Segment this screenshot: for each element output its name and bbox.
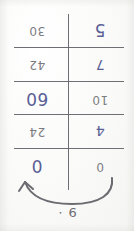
- table-cell-left-3: 60: [14, 86, 60, 112]
- table-cell-left-2: 42: [14, 53, 60, 77]
- table-row-divider-2: [14, 81, 124, 82]
- table-row-divider-4: [14, 148, 124, 149]
- table-cell-left-4: 24: [14, 120, 60, 144]
- table-cell-right-3: 10: [76, 88, 124, 112]
- table-column-divider: [68, 14, 69, 190]
- table-cell-right-4: 4: [76, 118, 124, 144]
- table-row-divider-3: [14, 114, 124, 115]
- table-cell-left-1: 30: [14, 18, 60, 44]
- table-row-divider-1: [14, 47, 124, 48]
- table-cell-right-2: 7: [76, 52, 124, 78]
- arrow-label: 9 ·: [38, 206, 96, 219]
- handwritten-note-page: 30 5 42 7 60 10 24 4 0 0 9 ·: [0, 0, 134, 231]
- table-cell-right-1: 5: [76, 16, 124, 44]
